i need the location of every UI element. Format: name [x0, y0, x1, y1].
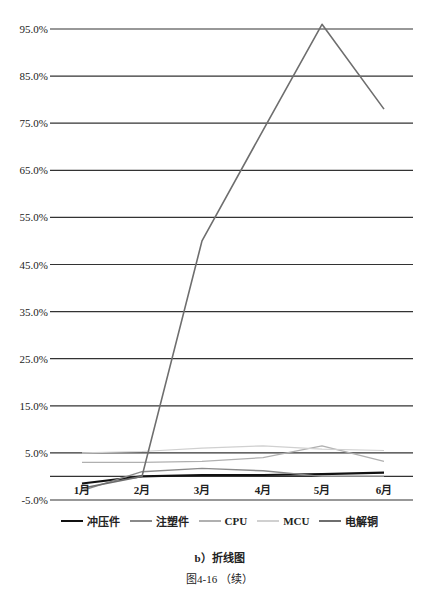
y-tick-label: 45.0%: [20, 259, 48, 271]
y-tick-label: 75.0%: [20, 117, 48, 129]
legend-swatch-line-icon: [199, 520, 221, 522]
line-chart: 95.0%85.0%75.0%65.0%55.0%45.0%35.0%25.0%…: [0, 0, 439, 510]
series-line: [82, 473, 384, 484]
x-tick-label: 6月: [376, 484, 393, 496]
legend-label: MCU: [283, 515, 309, 527]
y-tick-label: 5.0%: [25, 447, 48, 459]
y-tick-label: -5.0%: [21, 494, 48, 506]
x-tick-label: 2月: [134, 484, 151, 496]
legend-swatch-line-icon: [130, 520, 152, 522]
legend-item-copper: 电解铜: [319, 513, 378, 529]
series-line: [82, 24, 384, 488]
legend-label: 电解铜: [345, 513, 378, 529]
legend-label: CPU: [225, 515, 248, 527]
legend-label: 注塑件: [156, 513, 189, 529]
y-tick-label: 85.0%: [20, 70, 48, 82]
y-tick-label: 65.0%: [20, 164, 48, 176]
legend-label: 冲压件: [87, 513, 120, 529]
y-tick-label: 15.0%: [20, 400, 48, 412]
y-tick-label: 35.0%: [20, 306, 48, 318]
legend: 冲压件 注塑件 CPU MCU 电解铜: [0, 511, 439, 531]
y-axis-tick-labels: 95.0%85.0%75.0%65.0%55.0%45.0%35.0%25.0%…: [20, 23, 48, 506]
chart-subcaption: b）折线图: [0, 549, 439, 565]
legend-swatch-line-icon: [257, 520, 279, 522]
legend-swatch-line-icon: [61, 520, 83, 522]
legend-item-injection: 注塑件: [130, 513, 189, 529]
x-tick-label: 3月: [194, 484, 211, 496]
x-tick-label: 5月: [314, 484, 331, 496]
legend-item-mcu: MCU: [257, 515, 309, 527]
y-tick-label: 95.0%: [20, 23, 48, 35]
legend-swatch-line-icon: [319, 520, 341, 522]
figure-caption: 图4-16 （续）: [0, 570, 439, 586]
legend-item-stamping: 冲压件: [61, 513, 120, 529]
legend-item-cpu: CPU: [199, 515, 248, 527]
y-tick-label: 55.0%: [20, 211, 48, 223]
gridlines: [50, 29, 413, 500]
series-line: [82, 446, 384, 463]
series-line: [82, 446, 384, 453]
y-tick-label: 25.0%: [20, 353, 48, 365]
x-axis-tick-labels: 1月2月3月4月5月6月: [74, 484, 393, 496]
x-tick-label: 1月: [74, 484, 91, 496]
data-series: [82, 24, 384, 490]
x-tick-label: 4月: [255, 484, 272, 496]
